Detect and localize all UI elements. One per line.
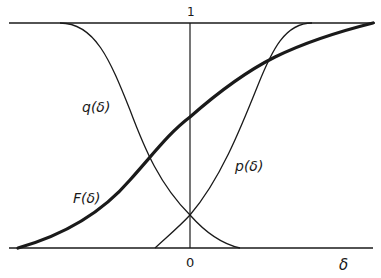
curve-q	[60, 23, 240, 248]
curve-F	[18, 23, 373, 248]
curve-q-label: q(δ)	[82, 99, 110, 115]
curve-F-label: F(δ)	[73, 190, 101, 206]
origin-label: 0	[186, 255, 194, 270]
top-value-label: 1	[187, 5, 195, 19]
curve-p	[155, 23, 312, 248]
x-variable-label: δ	[339, 256, 348, 274]
diagram-canvas: 1 0 δ q(δ) F(δ) p(δ)	[0, 0, 381, 278]
curve-p-label: p(δ)	[234, 158, 263, 174]
